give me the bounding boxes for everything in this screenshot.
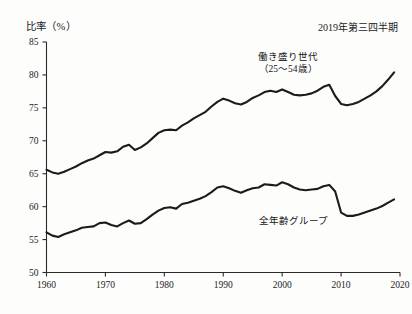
y-tick-label: 65 <box>29 169 39 179</box>
y-tick-label: 75 <box>29 103 39 113</box>
y-tick-label: 55 <box>29 235 39 245</box>
x-tick-label: 1990 <box>214 280 233 290</box>
x-tick-label: 1970 <box>96 280 115 290</box>
y-tick-label: 80 <box>29 70 39 80</box>
y-tick-label: 85 <box>29 37 39 47</box>
y-tick-label: 70 <box>29 136 39 146</box>
x-tick-group: 1960197019801990200020102020 <box>37 273 410 290</box>
series-line-all-ages <box>47 182 395 237</box>
x-tick-label: 1980 <box>155 280 174 290</box>
series-group <box>47 72 395 237</box>
series-label-prime-age-line2: （25〜54歳） <box>258 64 318 76</box>
y-tick-label: 50 <box>29 268 39 278</box>
series-label-prime-age: 働き盛り世代 （25〜54歳） <box>258 52 318 76</box>
x-axis-group: 1960197019801990200020102020 <box>37 273 410 290</box>
x-tick-label: 2020 <box>391 280 410 290</box>
x-tick-label: 2000 <box>273 280 292 290</box>
x-tick-label: 1960 <box>37 280 56 290</box>
series-line-prime-age <box>47 72 395 173</box>
series-label-prime-age-line1: 働き盛り世代 <box>258 52 318 64</box>
chart-plot-area: 8580757065605550 19601970198019902000201… <box>0 0 412 314</box>
chart-container: 比率（%） 2019年第三四半期 8580757065605550 196019… <box>0 0 412 314</box>
y-axis-group: 8580757065605550 <box>29 37 47 278</box>
x-tick-label: 2010 <box>332 280 351 290</box>
series-label-all-ages: 全年齢グループ <box>259 216 328 228</box>
y-tick-group: 8580757065605550 <box>29 37 47 278</box>
y-tick-label: 60 <box>29 202 39 212</box>
